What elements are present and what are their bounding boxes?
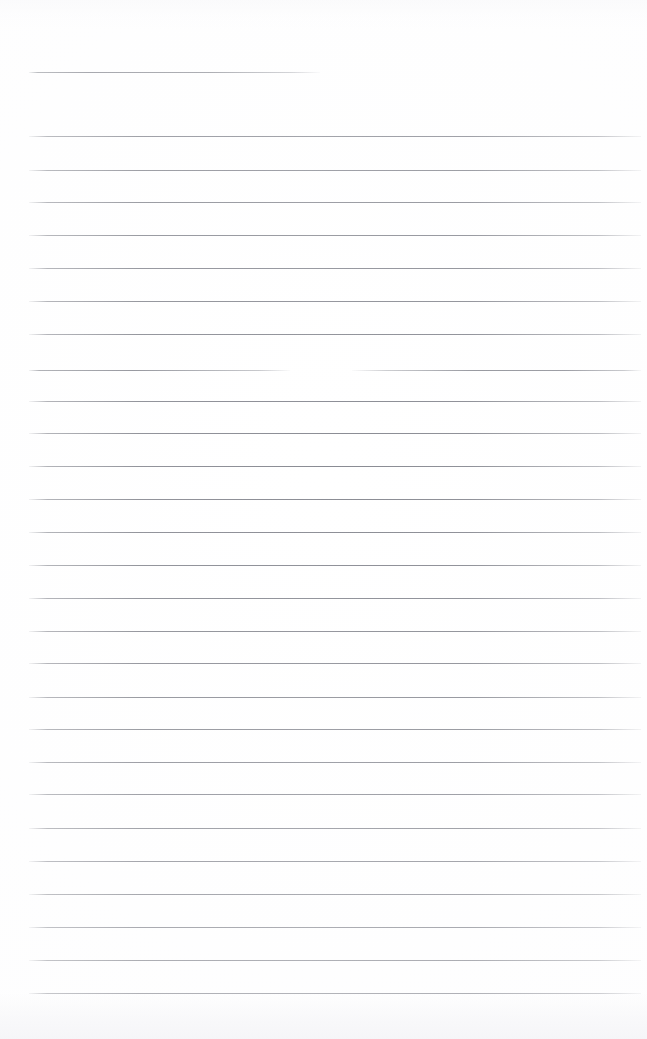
ruled-line [0,136,647,137]
ruled-line-segment [29,697,641,698]
ruled-line [0,202,647,203]
ruled-line [0,565,647,566]
ruled-line [0,960,647,961]
ruled-line [0,828,647,829]
ruled-line-segment [29,663,641,664]
ruled-line-segment [29,960,641,961]
ruled-line [0,927,647,928]
ruled-line [0,72,647,73]
ruled-line [0,301,647,302]
ruled-line-segment [29,894,641,895]
ruled-line-segment [29,433,641,434]
ruled-line [0,499,647,500]
paper-texture-overlay [0,0,647,1039]
ruled-line-segment [29,598,641,599]
ruled-line-segment [29,268,641,269]
ruled-line [0,401,647,402]
ruled-line-segment [29,927,641,928]
ruled-line-segment [29,136,641,137]
ruled-line-segment [29,828,641,829]
ruled-line-segment [29,235,641,236]
ruled-line-segment [29,532,641,533]
ruled-line [0,663,647,664]
ruled-line [0,334,647,335]
ruled-line-segment [29,72,320,73]
ruled-line [0,729,647,730]
ruled-line [0,532,647,533]
ruled-line-segment [29,499,641,500]
ruled-line [0,631,647,632]
ruled-line [0,466,647,467]
ruled-line [0,794,647,795]
ruled-line [0,697,647,698]
ruled-line-segment [29,202,641,203]
ruled-line-segment [29,565,641,566]
ruled-line-segment [29,370,290,371]
ruled-line [0,370,647,371]
ruled-line [0,894,647,895]
ruled-line [0,762,647,763]
ruled-line [0,861,647,862]
ruled-line-segment [29,466,641,467]
ruled-line [0,598,647,599]
ruled-line-segment [29,301,641,302]
scan-noise-bottom [0,993,647,1039]
ruled-line-segment [29,762,641,763]
ruled-line [0,170,647,171]
ruled-line-segment [29,993,641,994]
ruled-line-segment [29,729,641,730]
ruled-line-segment [29,334,641,335]
ruled-line [0,268,647,269]
ruled-line [0,235,647,236]
ruled-line-segment [29,170,641,171]
ruled-line-segment [29,861,641,862]
scanned-page [0,0,647,1039]
scan-noise-top [0,0,647,30]
ruled-line-segment [352,370,641,371]
ruled-line-segment [29,631,641,632]
ruled-line [0,433,647,434]
ruled-line-segment [29,401,641,402]
ruled-line-segment [29,794,641,795]
ruled-line [0,993,647,994]
